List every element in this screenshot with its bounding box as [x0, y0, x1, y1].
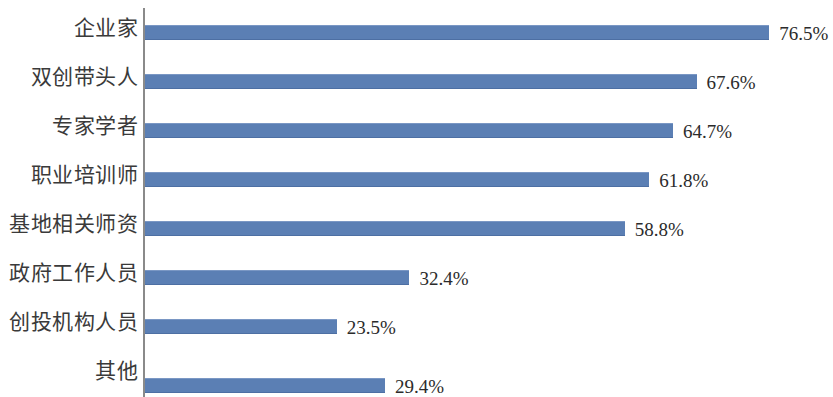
value-label: 32.4%: [419, 269, 468, 288]
chart-row: 专家学者 64.7%: [0, 114, 833, 163]
chart-row: 基地相关师资 58.8%: [0, 212, 833, 261]
category-label: 企业家: [0, 16, 138, 40]
chart-row: 双创带头人 67.6%: [0, 65, 833, 114]
bar-创投机构人员: [145, 319, 337, 334]
chart-row: 职业培训师 61.8%: [0, 163, 833, 212]
bar-基地相关师资: [145, 221, 625, 236]
bar-其他: [145, 378, 385, 393]
value-label: 76.5%: [779, 24, 828, 43]
category-label: 创投机构人员: [0, 310, 138, 334]
bar-企业家: [145, 25, 769, 40]
bar-双创带头人: [145, 74, 697, 89]
category-label: 职业培训师: [0, 163, 138, 187]
chart-row: 政府工作人员 32.4%: [0, 261, 833, 310]
category-label: 双创带头人: [0, 65, 138, 89]
bar-政府工作人员: [145, 270, 409, 285]
category-label: 政府工作人员: [0, 261, 138, 285]
category-label: 基地相关师资: [0, 212, 138, 236]
value-label: 23.5%: [347, 318, 396, 337]
value-label: 58.8%: [635, 220, 684, 239]
value-label: 61.8%: [659, 171, 708, 190]
bar-专家学者: [145, 123, 673, 138]
horizontal-bar-chart: 企业家 76.5% 双创带头人 67.6% 专家学者 64.7% 职业培训师 6…: [0, 0, 833, 397]
bar-职业培训师: [145, 172, 649, 187]
value-label: 67.6%: [707, 73, 756, 92]
chart-row: 其他 29.4%: [0, 359, 833, 397]
value-label: 29.4%: [395, 377, 444, 396]
category-label: 其他: [0, 359, 138, 383]
value-label: 64.7%: [683, 122, 732, 141]
category-label: 专家学者: [0, 114, 138, 138]
chart-row: 创投机构人员 23.5%: [0, 310, 833, 359]
chart-row: 企业家 76.5%: [0, 16, 833, 65]
